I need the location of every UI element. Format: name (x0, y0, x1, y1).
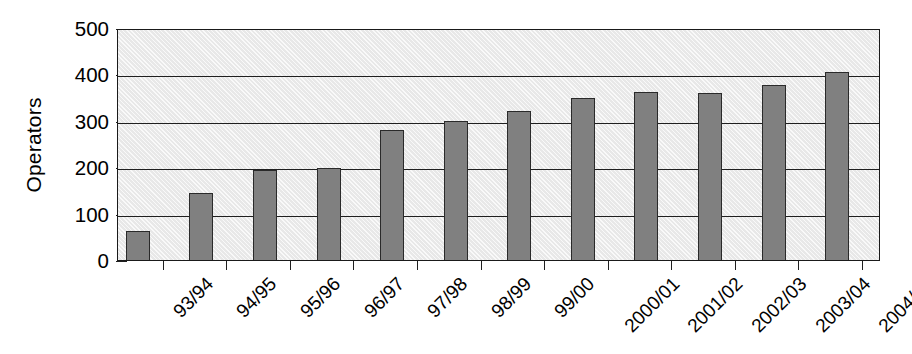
plot-area (117, 29, 880, 261)
bar-96-97 (317, 168, 341, 260)
x-axis-label-2002-03: 2002/03 (747, 273, 811, 337)
bar-99-00 (507, 111, 531, 260)
bars (118, 30, 879, 260)
x-tick-mark-2004-05 (862, 261, 863, 270)
x-axis-label-98-99: 98/99 (487, 273, 536, 322)
x-tick-mark-93-94 (163, 261, 164, 270)
x-axis-label-2000-01: 2000/01 (620, 273, 684, 337)
x-tick-mark-96-97 (353, 261, 354, 270)
bar-2000-01 (571, 98, 595, 260)
x-axis-label-96-97: 96/97 (360, 273, 409, 322)
x-axis-label-text: 93/94 (169, 273, 218, 322)
x-axis-label-text: 2000/01 (620, 273, 684, 337)
x-tick-mark-95-96 (290, 261, 291, 270)
bar-2001-02 (634, 92, 658, 260)
y-tick-label-200: 200 (23, 158, 109, 179)
bar-2003-04 (762, 85, 786, 260)
bar-2002-03 (698, 93, 722, 261)
y-tick-label-400: 400 (23, 65, 109, 86)
x-axis-label-text: 98/99 (487, 273, 536, 322)
x-axis-label-93-94: 93/94 (169, 273, 218, 322)
bar-98-99 (444, 121, 468, 260)
x-axis-label-text: 96/97 (360, 273, 409, 322)
x-tick-mark-94-95 (226, 261, 227, 270)
bar-94-95 (189, 193, 213, 260)
y-tick-label-500: 500 (23, 19, 109, 40)
x-tick-mark-99-00 (544, 261, 545, 270)
y-tick-label-300: 300 (23, 112, 109, 133)
x-axis-label-95-96: 95/96 (296, 273, 345, 322)
x-tick-mark-2002-03 (735, 261, 736, 270)
y-axis-tick-labels: 0100200300400500 (13, 0, 109, 354)
bar-chart: Operators 0100200300400500 93/9494/9595/… (0, 0, 912, 354)
x-axis-label-text: 2004/05 (874, 273, 912, 337)
x-axis-label-2004-05: 2004/05 (874, 273, 912, 337)
x-axis-label-text: 94/95 (232, 273, 281, 322)
x-axis-label-94-95: 94/95 (232, 273, 281, 322)
x-axis-label-97-98: 97/98 (423, 273, 472, 322)
x-axis-label-2001-02: 2001/02 (683, 273, 747, 337)
x-axis-label-text: 95/96 (296, 273, 345, 322)
x-axis-label-99-00: 99/00 (550, 273, 599, 322)
y-tick-mark-0 (116, 261, 127, 262)
bar-97-98 (380, 130, 404, 260)
x-axis-label-text: 2002/03 (747, 273, 811, 337)
x-axis-label-text: 2001/02 (683, 273, 747, 337)
x-tick-mark-2001-02 (671, 261, 672, 270)
x-tick-mark-2003-04 (798, 261, 799, 270)
y-tick-label-100: 100 (23, 204, 109, 225)
x-axis-label-2003-04: 2003/04 (811, 273, 875, 337)
x-axis-label-text: 2003/04 (811, 273, 875, 337)
x-tick-mark-2000-01 (608, 261, 609, 270)
x-tick-mark-97-98 (417, 261, 418, 270)
y-tick-label-0: 0 (23, 251, 109, 272)
x-axis-label-text: 99/00 (550, 273, 599, 322)
bar-95-96 (253, 170, 277, 260)
x-axis-label-text: 97/98 (423, 273, 472, 322)
bar-93-94 (126, 231, 150, 260)
x-tick-mark-98-99 (481, 261, 482, 270)
bar-2004-05 (825, 72, 849, 260)
